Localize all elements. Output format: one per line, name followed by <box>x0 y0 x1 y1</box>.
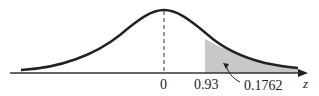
area-label: 0.1762 <box>244 78 283 93</box>
normal-curve-diagram: 0 0.93 0.1762 z <box>0 0 319 96</box>
normal-curve <box>21 10 298 70</box>
axis-label-z: z <box>302 76 308 91</box>
tick-label-zero: 0 <box>160 77 167 92</box>
tick-label-cutoff: 0.93 <box>194 77 219 92</box>
